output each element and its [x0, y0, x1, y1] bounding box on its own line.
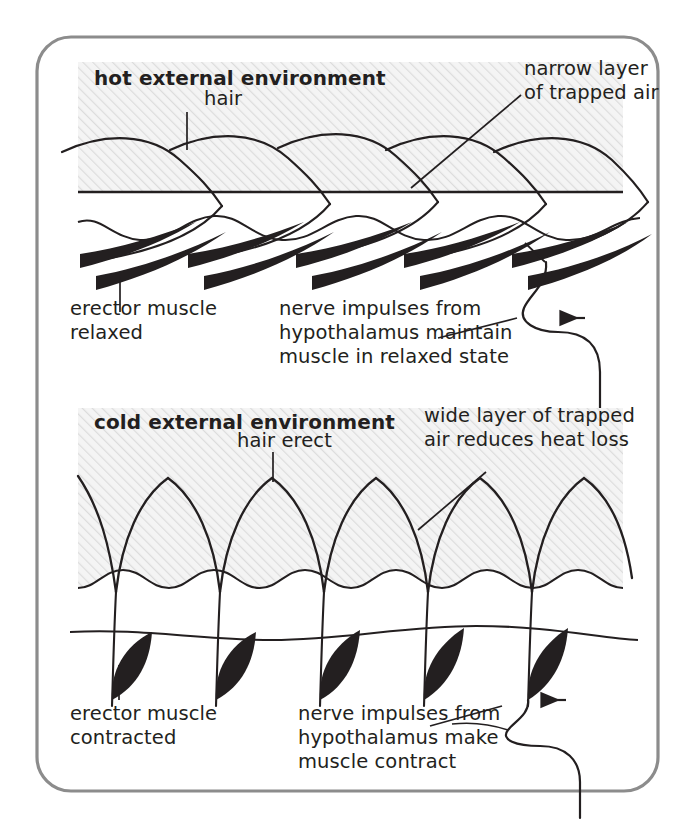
cold-label-trapped-air-line1: wide layer of trapped	[424, 404, 635, 429]
cold-nerve-fibre	[506, 700, 580, 818]
cold-label-muscle-line1: erector muscle	[70, 702, 217, 727]
hot-label-trapped-air-line2: of trapped air	[524, 81, 659, 106]
cold-label-trapped-air-line2: air reduces heat loss	[424, 428, 629, 453]
cold-label-nerve-line1: nerve impulses from	[298, 702, 500, 727]
hot-label-muscle-line2: relaxed	[70, 321, 143, 346]
hot-label-muscle-line1: erector muscle	[70, 297, 217, 322]
cold-label-hair-erect: hair erect	[237, 429, 332, 454]
hot-label-nerve-line3: muscle in relaxed state	[279, 345, 509, 370]
hot-label-trapped-air-line1: narrow layer	[524, 57, 648, 82]
hot-label-nerve-line2: hypothalamus maintain	[279, 321, 512, 346]
cold-label-nerve-line3: muscle contract	[298, 750, 456, 775]
hot-erector-muscle-group	[80, 222, 652, 290]
hot-label-hair: hair	[204, 87, 242, 112]
cold-label-nerve-line2: hypothalamus make	[298, 726, 498, 751]
cold-erector-muscle-group	[112, 628, 568, 700]
hot-panel	[62, 62, 652, 430]
hot-label-nerve-line1: nerve impulses from	[279, 297, 481, 322]
thermoregulation-figure: hot external environment hair narrow lay…	[0, 0, 692, 826]
cold-label-muscle-line2: contracted	[70, 726, 176, 751]
